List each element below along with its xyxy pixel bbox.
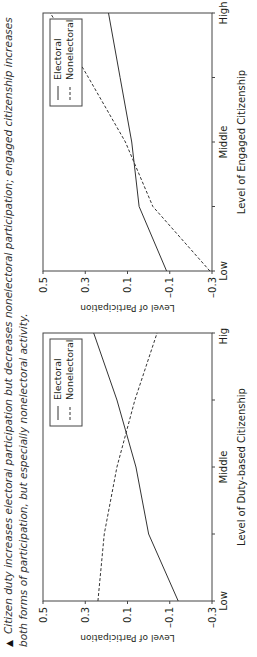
y-tick-label: 0.3: [80, 607, 91, 623]
y-tick-label: –0.3: [207, 607, 218, 628]
y-tick-label: –0.1: [164, 277, 175, 298]
x-tick-label: Middle: [218, 450, 229, 483]
series-line-nonelectoral: [98, 333, 157, 601]
y-tick-label: –0.1: [164, 607, 175, 628]
legend-label-electoral: Electoral: [52, 358, 63, 400]
legend-label-nonelectoral: Nonelectoral: [64, 340, 75, 400]
chart-engaged: 0.50.30.1–0.1–0.3Level of ParticipationL…: [0, 27, 257, 327]
y-tick-label: 0.3: [80, 277, 91, 293]
y-axis-title: Level of Participation: [80, 633, 174, 643]
y-tick-label: –0.3: [207, 277, 218, 298]
x-axis-title: Level of Engaged Citizenship: [236, 70, 247, 214]
x-tick-label: High: [218, 327, 229, 344]
legend-label-nonelectoral: Nonelectoral: [64, 20, 75, 80]
x-axis-title: Level of Duty-based Citizenship: [236, 388, 247, 546]
y-tick-label: 0.5: [38, 277, 49, 293]
figure: ▲Citizen duty increases electoral partic…: [0, 0, 257, 657]
x-tick-label: Low: [218, 261, 229, 281]
series-line-electoral: [94, 333, 179, 601]
x-tick-label: Low: [218, 591, 229, 611]
legend-label-electoral: Electoral: [52, 38, 63, 80]
y-tick-label: 0.1: [122, 277, 133, 293]
y-tick-label: 0.5: [38, 607, 49, 623]
y-tick-label: 0.1: [122, 607, 133, 623]
x-tick-label: High: [218, 2, 229, 25]
duty-based-line-chart: 0.50.30.1–0.1–0.3Level of ParticipationL…: [0, 327, 257, 657]
series-line-electoral: [108, 13, 166, 271]
chart-duty-based: 0.50.30.1–0.1–0.3Level of ParticipationL…: [0, 357, 257, 657]
y-axis-title: Level of Participation: [80, 303, 174, 313]
engaged-line-chart: 0.50.30.1–0.1–0.3Level of ParticipationL…: [0, 0, 257, 327]
x-tick-label: Middle: [218, 125, 229, 158]
